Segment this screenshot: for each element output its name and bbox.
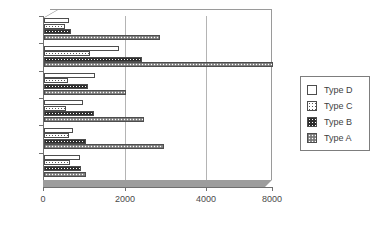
- y-axis-tick: [39, 71, 43, 72]
- legend-item[interactable]: Type C: [307, 98, 369, 114]
- y-axis-tick: [39, 98, 43, 99]
- bar: [44, 144, 164, 149]
- legend-item[interactable]: Type B: [307, 114, 369, 130]
- legend-swatch-type-d-icon: [307, 85, 317, 95]
- bar: [44, 78, 68, 83]
- y-axis-tick: [39, 125, 43, 126]
- x-axis-line: [43, 187, 272, 188]
- legend-label: Type B: [324, 117, 352, 127]
- bar: [44, 35, 160, 40]
- x-axis-tick-label: 8000: [262, 194, 282, 204]
- plot-right-edge: [271, 9, 272, 181]
- x-axis-tick: [206, 187, 207, 191]
- legend-label: Type C: [324, 101, 353, 111]
- bar: [44, 90, 126, 95]
- bar: [44, 117, 144, 122]
- bar-chart: 0200040008000 JanDecNovOctSeptAug Type D…: [0, 0, 375, 225]
- x-axis-tick-label: 4000: [196, 194, 216, 204]
- bar: [44, 100, 83, 105]
- gridline: [125, 16, 126, 180]
- x-axis-tick: [125, 187, 126, 191]
- legend-swatch-type-b-icon: [307, 117, 317, 127]
- bar: [44, 46, 119, 51]
- bar: [44, 51, 90, 56]
- legend-swatch-type-c-icon: [307, 101, 317, 111]
- plot-floor: [43, 180, 272, 187]
- bar: [44, 128, 73, 133]
- y-axis-tick: [39, 16, 43, 17]
- legend: Type D Type C Type B Type A: [300, 76, 370, 151]
- bar: [44, 106, 66, 111]
- bar: [44, 139, 86, 144]
- bar: [44, 24, 65, 29]
- bar: [44, 73, 95, 78]
- bar: [44, 172, 86, 177]
- bar: [44, 29, 71, 34]
- bar: [44, 57, 142, 62]
- legend-item[interactable]: Type A: [307, 130, 369, 146]
- legend-label: Type A: [324, 133, 352, 143]
- bar: [44, 111, 94, 116]
- bar: [44, 62, 273, 67]
- bar: [44, 166, 81, 171]
- bar: [44, 160, 70, 165]
- legend-label: Type D: [324, 85, 353, 95]
- gridline: [206, 16, 207, 180]
- x-axis-tick-label: 0: [40, 194, 45, 204]
- x-axis-tick: [43, 187, 44, 191]
- legend-item[interactable]: Type D: [307, 82, 369, 98]
- y-axis-tick: [39, 153, 43, 154]
- x-axis-tick: [272, 187, 273, 191]
- bar: [44, 18, 69, 23]
- plot-top-edge: [50, 9, 272, 10]
- bar: [44, 155, 80, 160]
- bar: [44, 84, 88, 89]
- y-axis-tick: [39, 43, 43, 44]
- plot-wall-top-bevel: [43, 9, 74, 18]
- legend-swatch-type-a-icon: [307, 133, 317, 143]
- bar: [44, 133, 69, 138]
- x-axis-tick-label: 2000: [115, 194, 135, 204]
